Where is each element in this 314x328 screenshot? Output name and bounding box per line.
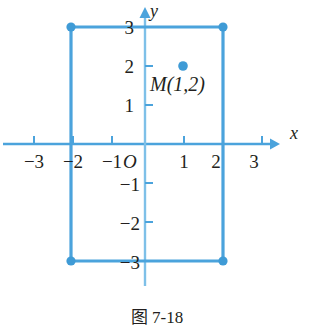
x-tick-label-1: 1 [179,152,189,171]
point-m-dot [178,61,188,71]
vertex-dot-top-left [66,22,75,31]
vertex-dot-bottom-right [218,256,227,265]
point-m-label: M(1,2) [150,74,205,94]
vertex-dot-top-right [218,22,227,31]
y-tick-label-2: 2 [125,57,135,76]
x-axis-label: x [290,124,298,142]
vertex-dot-bottom-left [66,256,75,265]
x-tick-label--1: −1 [102,152,122,171]
y-tick-label-1: 1 [125,96,135,115]
y-axis-arrow-icon [140,7,151,18]
y-tick-label--3: −3 [120,253,140,272]
y-axis-label: y [150,2,158,20]
y-tick-label--1: −1 [120,175,140,194]
x-tick-label--2: −2 [63,152,83,171]
y-tick-label-3: 3 [125,18,135,37]
y-tick-label--2: −2 [120,214,140,233]
figure-caption: 图 7-18 [0,303,314,328]
x-tick-label-3: 3 [249,152,259,171]
x-tick-label--3: −3 [24,152,44,171]
origin-label: O [123,152,137,171]
x-axis-arrow-icon [270,139,280,150]
x-tick-label-2: 2 [211,152,221,171]
